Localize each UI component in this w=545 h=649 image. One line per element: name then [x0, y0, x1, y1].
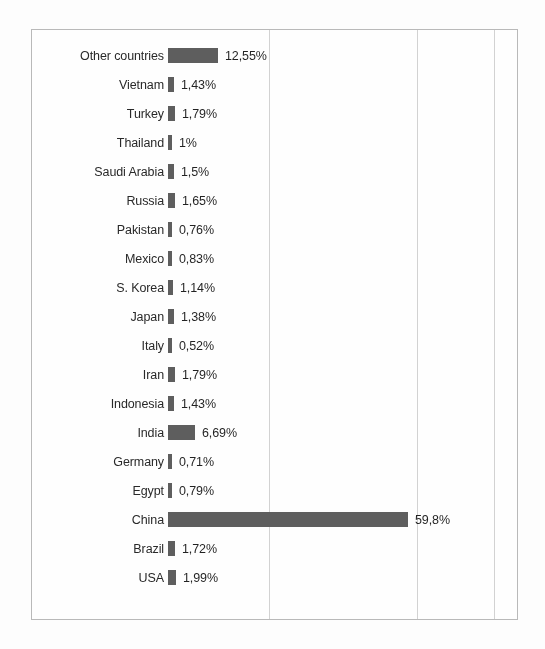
- bar: [168, 106, 175, 121]
- value-label: 0,83%: [179, 252, 214, 266]
- category-label: Russia: [32, 194, 164, 208]
- value-label: 59,8%: [415, 513, 450, 527]
- category-label: USA: [32, 571, 164, 585]
- bar-chart: Other countries12,55%Vietnam1,43%Turkey1…: [31, 29, 518, 620]
- bar: [168, 570, 176, 585]
- bar-and-value: 1,79%: [168, 360, 217, 389]
- category-label: Thailand: [32, 136, 164, 150]
- bar-row: China59,8%: [32, 505, 517, 534]
- bar-row: Pakistan0,76%: [32, 215, 517, 244]
- bar: [168, 367, 175, 382]
- bar-row: Germany0,71%: [32, 447, 517, 476]
- bar-and-value: 1,72%: [168, 534, 217, 563]
- category-label: S. Korea: [32, 281, 164, 295]
- category-label: Japan: [32, 310, 164, 324]
- category-label: Egypt: [32, 484, 164, 498]
- bar: [168, 512, 408, 527]
- bar: [168, 396, 174, 411]
- value-label: 1,79%: [182, 107, 217, 121]
- bar-row: Indonesia1,43%: [32, 389, 517, 418]
- bar-and-value: 6,69%: [168, 418, 237, 447]
- bar-row: USA1,99%: [32, 563, 517, 592]
- value-label: 1,5%: [181, 165, 209, 179]
- value-label: 6,69%: [202, 426, 237, 440]
- bar-row: Brazil1,72%: [32, 534, 517, 563]
- bar-and-value: 0,83%: [168, 244, 214, 273]
- category-label: Pakistan: [32, 223, 164, 237]
- bar-and-value: 59,8%: [168, 505, 450, 534]
- bar-row: Turkey1,79%: [32, 99, 517, 128]
- value-label: 1,99%: [183, 571, 218, 585]
- bar-row: Mexico0,83%: [32, 244, 517, 273]
- category-label: Iran: [32, 368, 164, 382]
- bar-row: Italy0,52%: [32, 331, 517, 360]
- bar-row: S. Korea1,14%: [32, 273, 517, 302]
- bar-and-value: 1,99%: [168, 563, 218, 592]
- bar-row: Saudi Arabia1,5%: [32, 157, 517, 186]
- value-label: 1,43%: [181, 397, 216, 411]
- value-label: 1,38%: [181, 310, 216, 324]
- value-label: 0,71%: [179, 455, 214, 469]
- value-label: 12,55%: [225, 49, 267, 63]
- category-label: Mexico: [32, 252, 164, 266]
- bar: [168, 454, 172, 469]
- value-label: 1%: [179, 136, 197, 150]
- bar: [168, 338, 172, 353]
- bar-and-value: 1,65%: [168, 186, 217, 215]
- category-label: Brazil: [32, 542, 164, 556]
- bar-row: Thailand1%: [32, 128, 517, 157]
- category-label: Saudi Arabia: [32, 165, 164, 179]
- plot-area: Other countries12,55%Vietnam1,43%Turkey1…: [32, 30, 517, 619]
- value-label: 1,72%: [182, 542, 217, 556]
- value-label: 1,65%: [182, 194, 217, 208]
- bar-and-value: 1,38%: [168, 302, 216, 331]
- bar-row: Vietnam1,43%: [32, 70, 517, 99]
- bar-rows: Other countries12,55%Vietnam1,43%Turkey1…: [32, 41, 517, 592]
- category-label: Turkey: [32, 107, 164, 121]
- bar-and-value: 1,79%: [168, 99, 217, 128]
- bar: [168, 280, 173, 295]
- bar: [168, 222, 172, 237]
- bar-and-value: 0,76%: [168, 215, 214, 244]
- category-label: India: [32, 426, 164, 440]
- bar-and-value: 1,5%: [168, 157, 209, 186]
- bar: [168, 135, 172, 150]
- bar-and-value: 1,43%: [168, 70, 216, 99]
- bar-row: Egypt0,79%: [32, 476, 517, 505]
- bar-row: India6,69%: [32, 418, 517, 447]
- category-label: Other countries: [32, 49, 164, 63]
- category-label: Indonesia: [32, 397, 164, 411]
- category-label: Italy: [32, 339, 164, 353]
- category-label: Germany: [32, 455, 164, 469]
- bar: [168, 425, 195, 440]
- category-label: Vietnam: [32, 78, 164, 92]
- bar: [168, 77, 174, 92]
- bar-row: Other countries12,55%: [32, 41, 517, 70]
- bar-row: Japan1,38%: [32, 302, 517, 331]
- bar: [168, 483, 172, 498]
- value-label: 0,52%: [179, 339, 214, 353]
- bar: [168, 164, 174, 179]
- value-label: 0,76%: [179, 223, 214, 237]
- bar-and-value: 0,79%: [168, 476, 214, 505]
- bar-and-value: 1,43%: [168, 389, 216, 418]
- bar-and-value: 12,55%: [168, 41, 267, 70]
- bar: [168, 48, 218, 63]
- bar: [168, 251, 172, 266]
- value-label: 1,14%: [180, 281, 215, 295]
- value-label: 0,79%: [179, 484, 214, 498]
- bar-and-value: 1,14%: [168, 273, 215, 302]
- bar: [168, 193, 175, 208]
- value-label: 1,79%: [182, 368, 217, 382]
- bar: [168, 541, 175, 556]
- bar-and-value: 0,52%: [168, 331, 214, 360]
- bar: [168, 309, 174, 324]
- bar-row: Iran1,79%: [32, 360, 517, 389]
- value-label: 1,43%: [181, 78, 216, 92]
- bar-and-value: 1%: [168, 128, 197, 157]
- bar-and-value: 0,71%: [168, 447, 214, 476]
- bar-row: Russia1,65%: [32, 186, 517, 215]
- category-label: China: [32, 513, 164, 527]
